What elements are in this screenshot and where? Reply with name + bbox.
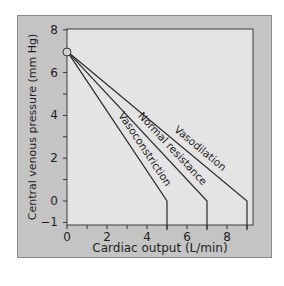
x-axis-label: Cardiac output (L/min) bbox=[92, 241, 227, 255]
y-tick-label: −1 bbox=[40, 215, 58, 229]
y-tick-label: 0 bbox=[50, 194, 58, 208]
y-tick-label: 2 bbox=[50, 151, 58, 165]
y-axis-label: Central venous pressure (mm Hg) bbox=[26, 34, 39, 221]
y-tick-label: 6 bbox=[50, 66, 58, 80]
origin-point-marker bbox=[63, 48, 71, 56]
y-tick-label: 4 bbox=[50, 108, 58, 122]
x-tick-label: 0 bbox=[63, 230, 71, 244]
y-tick-label: 8 bbox=[50, 23, 58, 37]
cardiac-output-chart: −102468 02468 VasoconstrictionNormal res… bbox=[0, 0, 284, 286]
